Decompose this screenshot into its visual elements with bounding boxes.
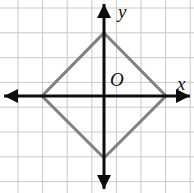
x-axis-label: x xyxy=(177,74,185,93)
coordinate-plane-figure: y x O xyxy=(0,0,194,193)
coordinate-plane-svg xyxy=(0,0,194,193)
y-axis-label: y xyxy=(118,2,126,21)
origin-label: O xyxy=(110,70,124,89)
